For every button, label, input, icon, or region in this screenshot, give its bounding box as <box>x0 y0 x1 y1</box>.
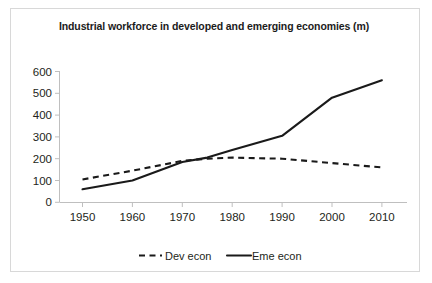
y-tick-label-400: 400 <box>33 109 52 121</box>
y-tick-label-300: 300 <box>33 131 52 143</box>
series-line-dev-econ <box>83 158 382 180</box>
chart-figure-frame: Industrial workforce in developed and em… <box>10 8 420 272</box>
legend-label-eme-econ: Eme econ <box>252 250 302 262</box>
x-axis-tick-labels: 1950 1960 1970 1980 1990 2000 2010 <box>70 211 395 223</box>
y-tick-label-100: 100 <box>33 175 52 187</box>
y-tick-label-600: 600 <box>33 66 52 78</box>
x-tick-label-1960: 1960 <box>120 211 146 223</box>
x-tick-label-2000: 2000 <box>319 211 345 223</box>
x-tick-label-1990: 1990 <box>269 211 295 223</box>
series-line-eme-econ <box>83 80 382 189</box>
x-tick-label-1980: 1980 <box>219 211 245 223</box>
x-tick-label-1970: 1970 <box>170 211 196 223</box>
y-tick-label-200: 200 <box>33 153 52 165</box>
x-tick-label-2010: 2010 <box>369 211 395 223</box>
y-tick-label-0: 0 <box>46 196 52 208</box>
chart-legend: Dev econ Eme econ <box>139 250 302 262</box>
x-axis-ticks <box>83 203 382 208</box>
line-chart-plot: 600 500 400 300 200 100 0 1950 1960 1970… <box>11 9 421 273</box>
y-axis-ticks <box>55 72 60 203</box>
legend-label-dev-econ: Dev econ <box>165 250 211 262</box>
y-axis-tick-labels: 600 500 400 300 200 100 0 <box>33 66 52 209</box>
x-tick-label-1950: 1950 <box>70 211 96 223</box>
y-tick-label-500: 500 <box>33 87 52 99</box>
